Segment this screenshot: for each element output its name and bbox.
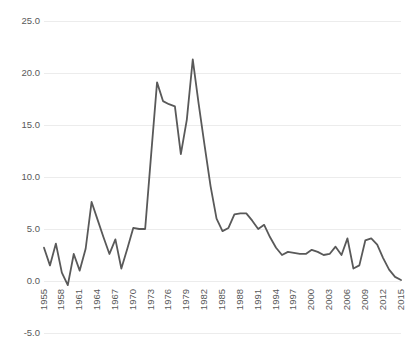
x-tick-label: 2009 bbox=[359, 289, 370, 310]
x-tick-label: 1955 bbox=[38, 289, 49, 310]
y-tick-label: 5.0 bbox=[27, 223, 40, 234]
x-tick-label: 1958 bbox=[55, 289, 66, 310]
x-tick-label: 1979 bbox=[180, 289, 191, 310]
x-tick-label: 1973 bbox=[145, 289, 156, 310]
x-axis-tick-labels: 1955195819611964196719701973197619791982… bbox=[38, 289, 406, 310]
x-tick-label: 2012 bbox=[377, 289, 388, 310]
chart-container: 25.020.015.010.05.00.0-5.0 1955195819611… bbox=[0, 0, 416, 348]
gridlines bbox=[44, 22, 401, 334]
x-tick-label: 1970 bbox=[127, 289, 138, 310]
x-tick-label: 1967 bbox=[109, 289, 120, 310]
x-tick-label: 1994 bbox=[270, 289, 281, 310]
x-tick-label: 1982 bbox=[198, 289, 209, 310]
x-tick-label: 1991 bbox=[252, 289, 263, 310]
x-tick-label: 1964 bbox=[91, 289, 102, 310]
y-tick-label: 20.0 bbox=[22, 67, 41, 78]
data-series-line bbox=[44, 59, 401, 285]
x-tick-label: 2000 bbox=[305, 289, 316, 310]
x-tick-label: 2003 bbox=[323, 289, 334, 310]
x-tick-label: 1985 bbox=[216, 289, 227, 310]
y-tick-label: 15.0 bbox=[22, 119, 41, 130]
y-tick-label: 10.0 bbox=[22, 171, 41, 182]
x-tick-label: 1997 bbox=[287, 289, 298, 310]
line-chart: 25.020.015.010.05.00.0-5.0 1955195819611… bbox=[0, 0, 416, 348]
x-tick-label: 1976 bbox=[162, 289, 173, 310]
y-tick-label: -5.0 bbox=[24, 327, 40, 338]
x-tick-label: 1961 bbox=[73, 289, 84, 310]
y-tick-label: 0.0 bbox=[27, 275, 40, 286]
x-tick-label: 1988 bbox=[234, 289, 245, 310]
y-tick-label: 25.0 bbox=[22, 15, 41, 26]
x-tick-label: 2015 bbox=[395, 289, 406, 310]
x-tick-label: 2006 bbox=[341, 289, 352, 310]
